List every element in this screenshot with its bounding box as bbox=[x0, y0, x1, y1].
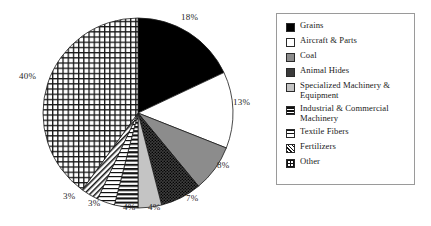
pie-plot-area: 18%13%8%7%4%4%3%3%40% bbox=[0, 0, 270, 226]
pie-slice-value-label: 13% bbox=[233, 97, 250, 107]
legend-item[interactable]: Textile Fibers bbox=[286, 127, 408, 138]
pie-slice-value-label: 40% bbox=[19, 71, 36, 81]
legend-item-label: Textile Fibers bbox=[300, 127, 349, 137]
legend-item-label: Specialized Machinery & Equipment bbox=[300, 81, 408, 100]
legend-item-label: Coal bbox=[300, 51, 317, 61]
legend-swatch-icon bbox=[286, 83, 295, 92]
pie-slice-value-label: 18% bbox=[181, 12, 198, 22]
legend-item[interactable]: Industrial & Commercial Machinery bbox=[286, 104, 408, 123]
legend-swatch-icon bbox=[286, 144, 295, 153]
pie-slice-value-label: 3% bbox=[63, 191, 75, 201]
legend-item[interactable]: Fertilizers bbox=[286, 142, 408, 153]
legend-swatch-icon bbox=[286, 106, 295, 115]
legend-swatch-icon bbox=[286, 23, 295, 32]
legend-swatch-icon bbox=[286, 38, 295, 47]
legend-item-label: Other bbox=[300, 157, 320, 167]
legend-item-label: Animal Hides bbox=[300, 66, 349, 76]
pie-slice-value-label: 8% bbox=[217, 160, 229, 170]
legend-swatch-icon bbox=[286, 68, 295, 77]
pie-slice-value-label: 4% bbox=[123, 202, 135, 212]
legend-item-label: Fertilizers bbox=[300, 142, 336, 152]
legend-item[interactable]: Coal bbox=[286, 51, 408, 62]
pie-chart-figure: 18%13%8%7%4%4%3%3%40% GrainsAircraft & P… bbox=[0, 0, 431, 226]
legend-swatch-icon bbox=[286, 159, 295, 168]
legend-swatch-icon bbox=[286, 53, 295, 62]
legend-item[interactable]: Grains bbox=[286, 21, 408, 32]
legend-item[interactable]: Animal Hides bbox=[286, 66, 408, 77]
pie-svg bbox=[0, 0, 270, 226]
legend-item[interactable]: Aircraft & Parts bbox=[286, 36, 408, 47]
legend-item-label: Grains bbox=[300, 21, 324, 31]
legend: GrainsAircraft & PartsCoalAnimal HidesSp… bbox=[276, 13, 415, 185]
legend-swatch-icon bbox=[286, 129, 295, 138]
pie-slice-value-label: 3% bbox=[88, 198, 100, 208]
legend-list: GrainsAircraft & PartsCoalAnimal HidesSp… bbox=[286, 21, 408, 168]
legend-item-label: Industrial & Commercial Machinery bbox=[300, 104, 408, 123]
legend-item-label: Aircraft & Parts bbox=[300, 36, 357, 46]
pie-slices bbox=[43, 18, 233, 208]
legend-item[interactable]: Specialized Machinery & Equipment bbox=[286, 81, 408, 100]
pie-slice-value-label: 7% bbox=[186, 193, 198, 203]
pie-slice-value-label: 4% bbox=[148, 202, 160, 212]
legend-item[interactable]: Other bbox=[286, 157, 408, 168]
